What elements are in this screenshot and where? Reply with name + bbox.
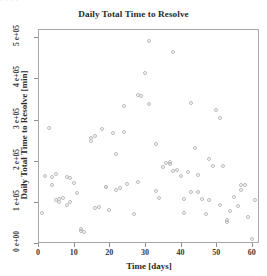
cropped-header-artifact: · · · · [0, 0, 267, 7]
data-point [118, 186, 122, 190]
x-axis-tick [109, 243, 110, 247]
data-point [196, 190, 200, 194]
data-point [193, 146, 197, 150]
data-point [125, 182, 129, 186]
data-point [175, 168, 179, 172]
data-point [154, 142, 158, 146]
y-axis-tick [34, 78, 38, 79]
x-axis-tick-label: 20 [94, 248, 124, 257]
data-point [47, 126, 51, 130]
data-point [161, 165, 165, 169]
data-point [200, 197, 204, 201]
data-point [122, 104, 126, 108]
data-point [147, 39, 151, 43]
data-point [204, 212, 208, 216]
data-point [214, 108, 218, 112]
data-point [57, 200, 61, 204]
data-point [218, 116, 222, 120]
data-point [250, 237, 254, 241]
data-point [75, 191, 79, 195]
x-axis-tick-label: 30 [130, 248, 160, 257]
data-point [189, 190, 193, 194]
data-point [114, 152, 118, 156]
data-point [179, 174, 183, 178]
data-point [40, 211, 44, 215]
data-point [221, 164, 225, 168]
y-axis-tick-label: 4 e+05 [12, 53, 21, 101]
x-axis-tick [181, 243, 182, 247]
data-point [207, 157, 211, 161]
data-point [243, 183, 247, 187]
x-axis-tick-label: 0 [23, 248, 53, 257]
data-point [111, 131, 115, 135]
data-point [236, 204, 240, 208]
data-point [157, 196, 161, 200]
data-point [54, 172, 58, 176]
y-axis-tick [34, 243, 38, 244]
data-point [93, 134, 97, 138]
data-point [82, 230, 86, 234]
x-axis-tick [38, 243, 39, 247]
data-point [72, 181, 76, 185]
x-axis-tick [74, 243, 75, 247]
cropped-header-text: · · · · [0, 0, 18, 5]
x-axis-tick [216, 243, 217, 247]
data-point [154, 189, 158, 193]
data-point [182, 197, 186, 201]
data-point [122, 130, 126, 134]
y-axis-tick [34, 37, 38, 38]
data-point [50, 183, 54, 187]
scatter-plot-figure: · · · · Daily Total Time to Resolve Dail… [0, 0, 267, 276]
y-axis-tick [34, 120, 38, 121]
data-point [189, 101, 193, 105]
y-axis-tick [34, 202, 38, 203]
data-point [186, 170, 190, 174]
data-point [182, 211, 186, 215]
x-axis-tick-label: 60 [237, 248, 267, 257]
y-axis-tick-label: 0 e+00 [12, 218, 21, 266]
chart-title: Daily Total Time to Resolve [0, 9, 267, 19]
data-point [136, 180, 140, 184]
x-axis-tick-label: 50 [201, 248, 231, 257]
data-point [139, 94, 143, 98]
data-point [104, 185, 108, 189]
data-point [228, 209, 232, 213]
data-point [68, 200, 72, 204]
data-point [207, 198, 211, 202]
data-point [132, 212, 136, 216]
data-point [100, 127, 104, 131]
data-point [107, 208, 111, 212]
x-axis-tick [252, 243, 253, 247]
y-axis-tick-label: 3 e+05 [12, 94, 21, 142]
y-axis-title: Daily Total Time to Resolve [min] [19, 35, 29, 235]
data-point [50, 175, 54, 179]
x-axis-tick-label: 40 [166, 248, 196, 257]
y-axis-tick-label: 1 e+05 [12, 176, 21, 224]
data-point [68, 176, 72, 180]
data-point [196, 173, 200, 177]
data-point [43, 174, 47, 178]
y-axis-tick [34, 161, 38, 162]
x-axis-tick [145, 243, 146, 247]
data-point [253, 198, 257, 202]
data-point [239, 188, 243, 192]
data-point [147, 102, 151, 106]
data-point [218, 203, 222, 207]
data-point [232, 195, 236, 199]
data-point [225, 220, 229, 224]
data-point [61, 196, 65, 200]
y-axis-tick-label: 5 e+05 [12, 12, 21, 60]
plot-data-area [38, 29, 259, 243]
data-point [171, 50, 175, 54]
x-axis-tick-label: 10 [59, 248, 89, 257]
data-point [97, 205, 101, 209]
data-point [211, 164, 215, 168]
data-point [143, 71, 147, 75]
data-point [246, 215, 250, 219]
data-point [168, 162, 172, 166]
x-axis-title: Time [days] [38, 261, 260, 271]
